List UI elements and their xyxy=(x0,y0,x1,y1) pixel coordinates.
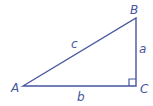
vertex-label-c: C xyxy=(140,82,149,96)
side-label-a: a xyxy=(139,42,146,56)
vertex-label-a: A xyxy=(10,81,19,95)
triangle-outline xyxy=(23,18,136,86)
vertex-label-b: B xyxy=(130,3,138,17)
right-triangle-diagram: B C A a b c xyxy=(0,0,153,106)
side-label-c: c xyxy=(71,37,78,51)
right-angle-marker xyxy=(129,79,136,86)
side-label-b: b xyxy=(77,90,85,104)
